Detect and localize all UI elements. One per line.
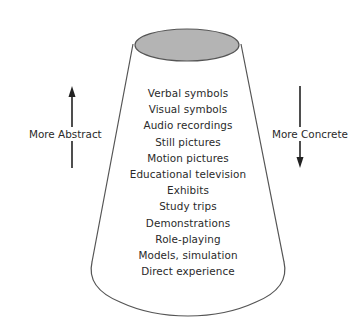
level-audio-recordings: Audio recordings [100, 117, 276, 133]
level-models-simulation: Models, simulation [100, 247, 276, 263]
level-motion-pictures: Motion pictures [100, 150, 276, 166]
level-educational-television: Educational television [100, 166, 276, 182]
cone-top-ellipse [135, 29, 239, 61]
more-abstract-label: More Abstract [29, 127, 102, 141]
level-verbal-symbols: Verbal symbols [100, 85, 276, 101]
level-still-pictures: Still pictures [100, 134, 276, 150]
level-demonstrations: Demonstrations [100, 215, 276, 231]
more-concrete-label: More Concrete [272, 127, 348, 141]
level-visual-symbols: Visual symbols [100, 101, 276, 117]
level-study-trips: Study trips [100, 198, 276, 214]
level-exhibits: Exhibits [100, 182, 276, 198]
level-direct-experience: Direct experience [100, 263, 276, 279]
cone-levels-list: Verbal symbols Visual symbols Audio reco… [100, 85, 276, 279]
level-role-playing: Role-playing [100, 231, 276, 247]
